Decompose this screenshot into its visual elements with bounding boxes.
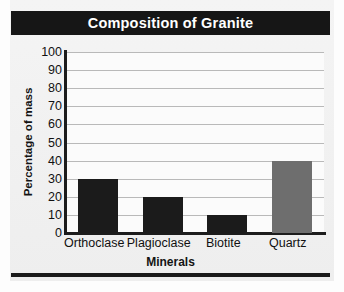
y-tick-label: 70 (26, 100, 62, 113)
x-tick-label: Quartz (252, 236, 325, 250)
x-tick-label: Plagioclase (123, 236, 196, 250)
y-tick-label: 0 (26, 227, 62, 240)
bar (207, 215, 247, 233)
y-tick-label: 40 (26, 155, 62, 168)
y-tick-label: 80 (26, 82, 62, 95)
x-tick-label: Biotite (187, 236, 260, 250)
footer-rule (11, 273, 330, 277)
bar-series (66, 52, 324, 233)
bar (78, 179, 118, 233)
bar (272, 161, 312, 233)
chart-title: Composition of Granite (88, 16, 254, 31)
bar (143, 197, 183, 233)
y-tick-label: 60 (26, 118, 62, 131)
y-tick-label: 100 (26, 46, 62, 59)
y-tick-label: 90 (26, 64, 62, 77)
y-tick-label: 50 (26, 137, 62, 150)
x-axis-title: Minerals (11, 255, 330, 269)
y-tick-label: 20 (26, 191, 62, 204)
x-tick-label: Orthoclase (58, 236, 131, 250)
y-axis-tick-labels: 1009080706050403020100 (20, 0, 62, 292)
y-tick-label: 10 (26, 209, 62, 222)
y-tick-label: 30 (26, 173, 62, 186)
x-axis-tick-labels: OrthoclasePlagioclaseBiotiteQuartz (62, 236, 328, 254)
chart-figure: Composition of Granite Percentage of mas… (0, 0, 344, 292)
